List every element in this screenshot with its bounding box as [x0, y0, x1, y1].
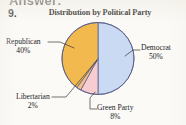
slice-label-green-party: Green Party 8%: [97, 104, 133, 121]
slice-label-democrat-name: Democrat: [141, 43, 171, 52]
slice-label-green-party-percent: 8%: [97, 113, 133, 122]
slice-label-libertarian-percent: 2%: [16, 102, 50, 111]
pie-slice-democrat[interactable]: [98, 23, 134, 95]
pie-slice-group: [62, 23, 134, 95]
slice-label-libertarian: Libertarian 2%: [16, 93, 50, 110]
slice-label-republican: Republican 40%: [6, 38, 41, 55]
slice-label-republican-percent: 40%: [6, 47, 41, 56]
pie-chart: Republican 40% Democrat 50% Libertarian …: [0, 0, 186, 125]
figure-container: Answer: 9. Distribution by Political Par…: [0, 0, 186, 125]
slice-label-democrat-percent: 50%: [141, 53, 171, 62]
slice-label-libertarian-name: Libertarian: [16, 92, 50, 101]
slice-label-republican-name: Republican: [6, 37, 41, 46]
slice-label-democrat: Democrat 50%: [141, 44, 171, 61]
slice-label-green-party-name: Green Party: [97, 103, 133, 112]
